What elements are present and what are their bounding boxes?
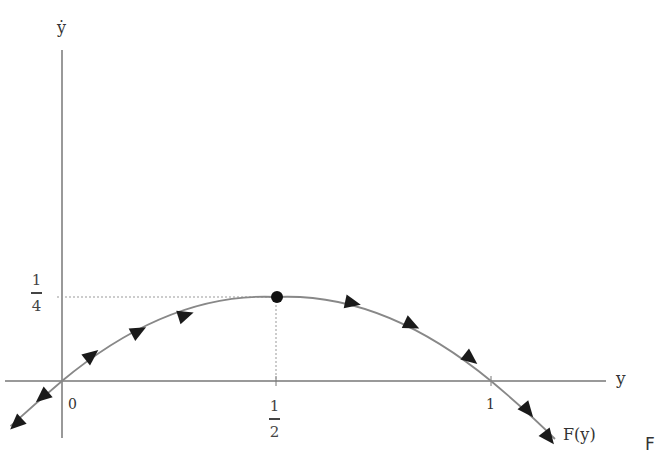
ydot-axis-label: ẏ: [57, 20, 66, 36]
arrow-icon: [5, 413, 26, 434]
max-point: [271, 291, 283, 303]
curve-F: [11, 297, 556, 439]
arrow-icon: [344, 294, 363, 311]
y-axis-label: y: [616, 370, 626, 387]
tick-label-quarter: 1 4: [31, 273, 42, 314]
tick-label-half: 1 2: [269, 399, 280, 440]
arrow-icon: [129, 321, 150, 341]
tick-half-num: 1: [270, 399, 280, 414]
tick-quarter-den: 4: [32, 299, 42, 314]
curve-label: F(y): [563, 427, 596, 443]
flow-arrows: [5, 294, 559, 448]
fraction-bar: [269, 418, 280, 420]
tick-quarter-num: 1: [32, 273, 42, 288]
tick-label-one: 1: [486, 397, 495, 411]
tick-half-den: 2: [270, 425, 280, 440]
arrow-icon: [539, 427, 560, 448]
tick-label-zero: 0: [68, 397, 77, 411]
edge-fragment-text: F: [645, 434, 655, 454]
arrow-icon: [517, 400, 538, 421]
fraction-bar: [31, 292, 42, 294]
